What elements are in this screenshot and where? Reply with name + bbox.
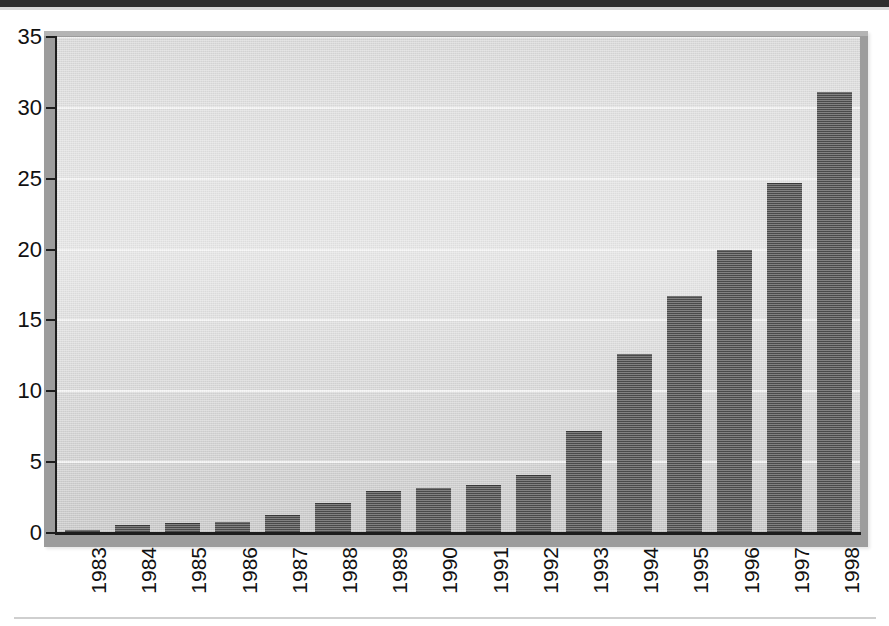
y-tick-15 — [46, 319, 56, 321]
y-tick-label-25: 25 — [6, 168, 42, 190]
x-tick-label-1994: 1994 — [640, 547, 661, 617]
y-tick-0 — [46, 532, 56, 534]
bar-1996 — [717, 250, 752, 533]
x-tick-label-1990: 1990 — [439, 547, 460, 617]
bar-1994 — [617, 354, 652, 533]
x-tick-label-1986: 1986 — [239, 547, 260, 617]
scan-artifact-bottom-rule — [14, 617, 876, 619]
scan-artifact-top-band-light — [0, 7, 889, 10]
bar-1990 — [416, 488, 451, 533]
x-tick-label-1988: 1988 — [339, 547, 360, 617]
y-axis-tick-labels: 05101520253035 — [0, 0, 42, 626]
bar-1992 — [516, 475, 551, 533]
x-tick-label-1995: 1995 — [690, 547, 711, 617]
x-tick-label-1983: 1983 — [88, 547, 109, 617]
y-tick-30 — [46, 107, 56, 109]
scan-artifact-top-band — [0, 0, 889, 7]
y-tick-label-35: 35 — [6, 26, 42, 48]
bar-chart-figure: 05101520253035 1983198419851986198719881… — [0, 0, 889, 626]
bar-1988 — [315, 503, 350, 533]
bar-1995 — [667, 296, 702, 533]
x-tick-label-1993: 1993 — [590, 547, 611, 617]
x-axis-tick-labels: 1983198419851986198719881989199019911992… — [57, 549, 860, 619]
bar-1998 — [817, 92, 852, 533]
x-tick-label-1997: 1997 — [791, 547, 812, 617]
x-tick-label-1996: 1996 — [741, 547, 762, 617]
bar-1991 — [466, 485, 501, 533]
gridline-30 — [57, 107, 860, 109]
y-tick-10 — [46, 390, 56, 392]
x-tick-label-1991: 1991 — [490, 547, 511, 617]
bar-1987 — [265, 515, 300, 533]
bar-1989 — [366, 491, 401, 534]
x-tick-label-1998: 1998 — [841, 547, 862, 617]
x-tick-label-1985: 1985 — [188, 547, 209, 617]
x-tick-label-1992: 1992 — [540, 547, 561, 617]
y-tick-label-0: 0 — [6, 522, 42, 544]
y-tick-label-15: 15 — [6, 309, 42, 331]
bar-1993 — [566, 431, 601, 533]
gridline-25 — [57, 178, 860, 180]
y-tick-5 — [46, 461, 56, 463]
gridline-35 — [57, 37, 860, 38]
y-tick-label-20: 20 — [6, 239, 42, 261]
y-tick-35 — [46, 36, 56, 38]
x-tick-label-1984: 1984 — [138, 547, 159, 617]
x-axis-line — [55, 532, 861, 535]
x-tick-label-1989: 1989 — [389, 547, 410, 617]
y-axis-line — [55, 36, 57, 535]
y-tick-label-30: 30 — [6, 97, 42, 119]
x-tick-label-1987: 1987 — [289, 547, 310, 617]
y-tick-label-5: 5 — [6, 451, 42, 473]
y-tick-25 — [46, 178, 56, 180]
y-tick-20 — [46, 249, 56, 251]
plot-frame-highlight — [44, 31, 868, 36]
plot-area — [57, 37, 860, 533]
y-tick-label-10: 10 — [6, 380, 42, 402]
bar-1997 — [767, 183, 802, 533]
